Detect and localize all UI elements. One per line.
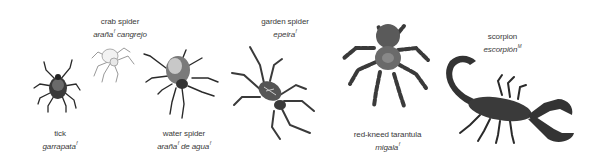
water-spider-english-name: water spider bbox=[144, 129, 224, 139]
gender-marker: f bbox=[295, 29, 296, 34]
garden-spider-label: garden spider epeiraf bbox=[250, 17, 320, 40]
tick-spanish-name: garrapataf bbox=[40, 139, 80, 152]
tick-illustration bbox=[32, 58, 82, 113]
tarantula-label: red-kneed tarantula migalaf bbox=[345, 130, 430, 153]
crab-spider-label: crab spider arañaf cangrejo bbox=[80, 17, 160, 40]
scorpion-spanish-name: escorpiónM bbox=[475, 42, 530, 55]
gender-marker: M bbox=[518, 44, 522, 49]
gender-marker: f bbox=[114, 29, 115, 34]
tick-label: tick garrapataf bbox=[40, 129, 80, 152]
scorpion-english-name: scorpion bbox=[475, 32, 530, 42]
tarantula-spanish-name: migalaf bbox=[345, 140, 430, 153]
crab-spider-illustration bbox=[88, 42, 138, 87]
crab-spider-english-name: crab spider bbox=[80, 17, 160, 27]
garden-spider-illustration bbox=[230, 45, 330, 140]
gender-marker: f bbox=[399, 142, 400, 147]
tarantula-illustration bbox=[340, 18, 432, 110]
gender-marker: f bbox=[178, 141, 179, 146]
scorpion-label: scorpion escorpiónM bbox=[475, 32, 530, 55]
garden-spider-english-name: garden spider bbox=[250, 17, 320, 27]
water-spider-illustration bbox=[142, 48, 220, 120]
water-spider-label: water spider arañaf de aguaf bbox=[144, 129, 224, 152]
tick-english-name: tick bbox=[40, 129, 80, 139]
gender-marker: f bbox=[76, 141, 77, 146]
tarantula-english-name: red-kneed tarantula bbox=[345, 130, 430, 140]
crab-spider-spanish-name: arañaf cangrejo bbox=[80, 27, 160, 40]
garden-spider-spanish-name: epeiraf bbox=[250, 27, 320, 40]
water-spider-spanish-name: arañaf de aguaf bbox=[144, 139, 224, 152]
scorpion-illustration bbox=[440, 55, 580, 150]
gender-marker: f bbox=[210, 141, 211, 146]
